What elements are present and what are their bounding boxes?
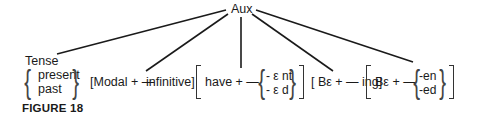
modal-infinitive: infinitive] — [146, 76, 195, 89]
passive-right-brace: } — [439, 64, 446, 98]
perfect-right-bracket — [299, 65, 304, 99]
passive-right-bracket — [449, 65, 454, 99]
perfect-right-brace: } — [289, 64, 296, 98]
progressive-be-ing: [ Bε + — ing] — [311, 76, 382, 89]
figure-caption: FIGURE 18 — [22, 102, 83, 114]
perfect-option-ed: - ε d — [266, 84, 289, 96]
branch-modal — [146, 14, 228, 71]
perfect-have: have + — — [205, 76, 259, 89]
passive-option-en: -en — [419, 70, 436, 82]
tense-right-brace: } — [72, 64, 79, 98]
modal-open: [Modal + — — [90, 76, 154, 89]
branch-tense — [57, 10, 226, 54]
perfect-left-brace: { — [258, 64, 265, 98]
perfect-left-bracket — [196, 65, 201, 99]
branch-be-en — [256, 10, 413, 62]
passive-option-ed: -ed — [419, 84, 436, 96]
passive-left-bracket — [366, 65, 371, 99]
tense-option-past: past — [38, 83, 62, 96]
aux-label: Aux — [231, 3, 253, 16]
tense-left-brace: { — [24, 64, 31, 98]
perfect-option-ent: - ε nt — [266, 70, 292, 82]
passive-be: Bε + — — [375, 76, 416, 89]
